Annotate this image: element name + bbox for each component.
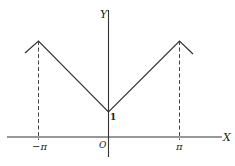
x-axis-label: X: [222, 131, 232, 144]
y-axis-label: Y: [100, 8, 109, 21]
origin-label: O: [99, 140, 107, 150]
pos-pi-label: π: [175, 141, 183, 152]
neg-pi-label: −π: [32, 141, 47, 152]
y-intercept-label: 1: [110, 112, 116, 122]
chart: Y X 1 O −π π: [0, 0, 235, 166]
